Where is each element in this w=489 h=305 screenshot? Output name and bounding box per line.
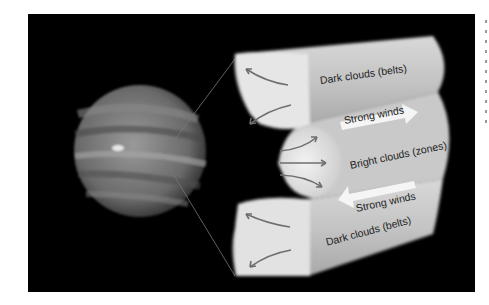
figure-panel: Dark clouds (belts) Strong winds Bright … <box>28 14 475 292</box>
jupiter-planet <box>74 85 206 217</box>
cropped-margin-text <box>485 20 489 130</box>
